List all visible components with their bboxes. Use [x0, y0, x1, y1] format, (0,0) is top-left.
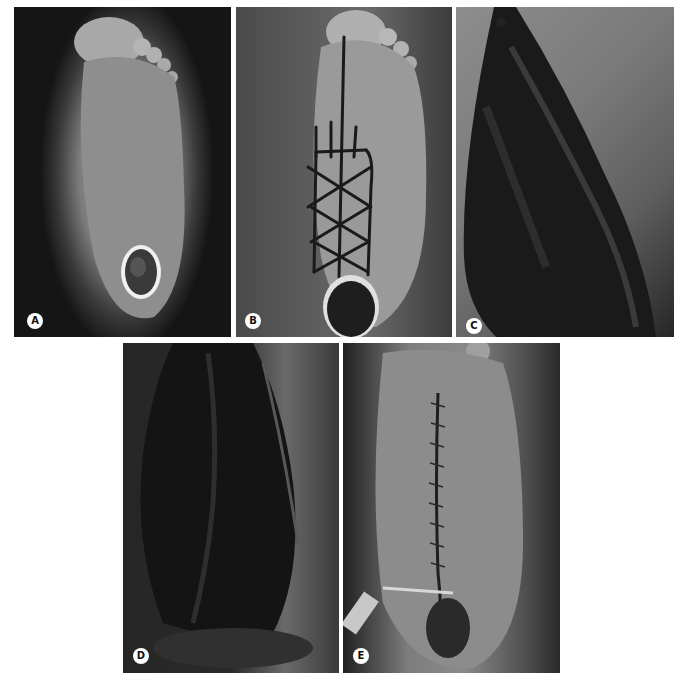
panel-label-badge: B — [245, 313, 261, 329]
foot-heel-ulcer-image — [14, 7, 231, 337]
sutured-closure-image — [343, 343, 560, 673]
panel-label-badge: D — [133, 648, 149, 664]
flap-raised-image — [456, 7, 674, 337]
flap-dissection-image — [123, 343, 339, 673]
figure-caption — [0, 678, 680, 686]
panel-a-photo: A — [14, 7, 231, 337]
panel-label-badge: E — [353, 648, 369, 664]
panel-label-badge: C — [466, 318, 482, 334]
panel-d-photo: D — [123, 343, 339, 673]
foot-surgical-marking-image — [236, 7, 452, 337]
panel-b-photo: B — [236, 7, 452, 337]
panel-label-badge: A — [27, 313, 43, 329]
panel-c-photo: C — [456, 7, 674, 337]
panel-e-photo: E — [343, 343, 560, 673]
